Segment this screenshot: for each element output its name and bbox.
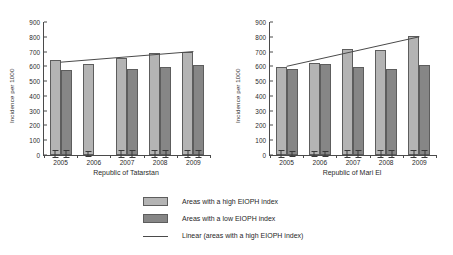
x-axis-tick: 2008 bbox=[379, 159, 394, 166]
figure-root: Incidence per 1000 010020030040050060070… bbox=[0, 0, 453, 255]
x-axis-tick: 2009 bbox=[186, 159, 201, 166]
x-axis-tick: 2006 bbox=[86, 159, 101, 166]
x-axis-title: Republic of Mari El bbox=[269, 169, 435, 176]
x-axis-tick-mark bbox=[370, 155, 371, 158]
y-axis-tick: 0 bbox=[36, 152, 44, 159]
y-axis-tick: 400 bbox=[255, 92, 270, 99]
chart-panel-tatarstan: Incidence per 1000 010020030040050060070… bbox=[2, 8, 218, 190]
y-axis-tick: 900 bbox=[29, 19, 44, 26]
trendline-high-index bbox=[270, 22, 436, 155]
x-axis-tick: 2009 bbox=[412, 159, 427, 166]
y-axis-tick: 800 bbox=[29, 33, 44, 40]
x-axis-tick-mark bbox=[110, 155, 111, 158]
y-axis-tick: 200 bbox=[255, 122, 270, 129]
y-axis-tick: 400 bbox=[29, 92, 44, 99]
x-axis-tick-mark bbox=[44, 155, 45, 158]
plot-area: 0100200300400500600700800900200520062007… bbox=[43, 22, 210, 156]
y-axis-tick: 800 bbox=[255, 33, 270, 40]
chart-legend: Areas with a high EIOPH indexAreas with … bbox=[143, 193, 403, 244]
x-axis-tick-mark bbox=[77, 155, 78, 158]
trendline-high-index bbox=[44, 22, 210, 155]
y-axis-tick: 300 bbox=[29, 107, 44, 114]
y-axis-tick: 200 bbox=[29, 122, 44, 129]
x-axis-tick: 2007 bbox=[120, 159, 135, 166]
x-axis-tick: 2008 bbox=[153, 159, 168, 166]
legend-line-marker-icon bbox=[143, 231, 168, 240]
legend-swatch-high-icon bbox=[143, 197, 168, 206]
legend-item: Areas with a high EIOPH index bbox=[143, 193, 403, 210]
y-axis-tick: 100 bbox=[29, 137, 44, 144]
x-axis-tick-mark bbox=[270, 155, 271, 158]
y-axis-tick: 500 bbox=[29, 78, 44, 85]
chart-panel-mari-el: Incidence per 1000 010020030040050060070… bbox=[228, 8, 444, 190]
x-axis-tick-mark bbox=[303, 155, 304, 158]
x-axis-tick-mark bbox=[177, 155, 178, 158]
legend-label: Areas with a high EIOPH index bbox=[182, 198, 278, 205]
legend-item: Areas with a low EIOPH index bbox=[143, 210, 403, 227]
x-axis-tick: 2006 bbox=[312, 159, 327, 166]
y-axis-tick: 700 bbox=[29, 48, 44, 55]
y-axis-tick: 300 bbox=[255, 107, 270, 114]
y-axis-tick: 100 bbox=[255, 137, 270, 144]
legend-item: Linear (areas with a high EIOPH index) bbox=[143, 227, 403, 244]
y-axis-tick: 900 bbox=[255, 19, 270, 26]
y-axis-label: Incidence per 1000 bbox=[4, 40, 18, 152]
legend-label: Areas with a low EIOPH index bbox=[182, 215, 275, 222]
x-axis-tick-mark bbox=[144, 155, 145, 158]
y-axis-label: Incidence per 1000 bbox=[230, 40, 244, 152]
y-axis-tick: 600 bbox=[29, 63, 44, 70]
x-axis-tick: 2005 bbox=[53, 159, 68, 166]
x-axis-tick-mark bbox=[210, 155, 211, 158]
x-axis-tick: 2005 bbox=[279, 159, 294, 166]
plot-area: 0100200300400500600700800900200520062007… bbox=[269, 22, 436, 156]
x-axis-title: Republic of Tatarstan bbox=[43, 169, 209, 176]
legend-swatch-low-icon bbox=[143, 214, 168, 223]
y-axis-tick: 700 bbox=[255, 48, 270, 55]
x-axis-tick-mark bbox=[336, 155, 337, 158]
x-axis-tick: 2007 bbox=[346, 159, 361, 166]
legend-label: Linear (areas with a high EIOPH index) bbox=[182, 232, 303, 239]
y-axis-tick: 0 bbox=[262, 152, 270, 159]
x-axis-tick-mark bbox=[436, 155, 437, 158]
y-axis-tick: 500 bbox=[255, 78, 270, 85]
x-axis-tick-mark bbox=[403, 155, 404, 158]
y-axis-tick: 600 bbox=[255, 63, 270, 70]
